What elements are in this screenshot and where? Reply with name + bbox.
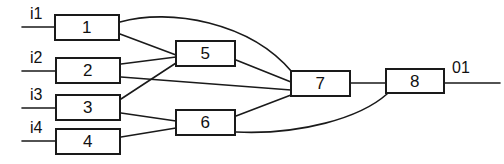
edge-n5-to-n7 — [236, 60, 291, 82]
edge-n1-to-n5 — [120, 34, 176, 55]
node-box-6[interactable]: 6 — [175, 109, 236, 136]
node-label-1: 1 — [82, 19, 92, 36]
input-label-i2: i2 — [30, 50, 42, 66]
node-label-4: 4 — [83, 133, 93, 150]
edge-n2-to-n7 — [121, 77, 291, 90]
edge-n6-to-n8 — [236, 94, 387, 132]
node-box-2[interactable]: 2 — [55, 57, 121, 84]
output-label-o1: 01 — [452, 60, 470, 76]
node-box-4[interactable]: 4 — [55, 128, 121, 155]
node-label-6: 6 — [201, 114, 211, 131]
edge-n6-to-n7 — [236, 95, 291, 116]
input-label-i3: i3 — [30, 87, 42, 103]
node-box-1[interactable]: 1 — [54, 14, 120, 41]
input-label-i1: i1 — [30, 6, 42, 22]
node-label-7: 7 — [316, 75, 326, 92]
edge-n4-to-n6 — [121, 128, 176, 137]
node-box-7[interactable]: 7 — [290, 70, 351, 97]
input-label-i4: i4 — [30, 120, 42, 136]
node-box-3[interactable]: 3 — [55, 94, 121, 121]
edge-n3-to-n6 — [121, 113, 176, 121]
diagram-canvas: i1i2i3i40112345678 — [0, 0, 504, 164]
node-label-2: 2 — [83, 62, 93, 79]
node-label-8: 8 — [410, 73, 420, 90]
node-label-5: 5 — [201, 45, 211, 62]
node-box-8[interactable]: 8 — [385, 68, 445, 94]
node-label-3: 3 — [83, 99, 93, 116]
edge-n2-to-n5 — [121, 57, 176, 64]
node-box-5[interactable]: 5 — [175, 40, 236, 67]
